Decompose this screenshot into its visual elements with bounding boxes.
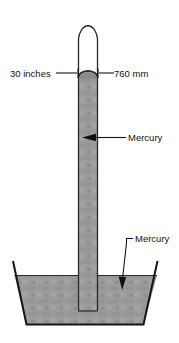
mercury-column: [78, 71, 98, 311]
label-mercury-column: Mercury: [128, 132, 163, 143]
label-760-mm: 760 mm: [114, 68, 148, 79]
vacuum-fill: [79, 26, 98, 76]
label-30-inches: 30 inches: [10, 68, 51, 79]
label-inches-group: 30 inches: [10, 68, 78, 79]
barometer-svg: 30 inches 760 mm Mercury Mercury: [0, 0, 179, 343]
label-mercury-reservoir: Mercury: [135, 233, 170, 244]
leader-mercury-reservoir: [123, 239, 134, 280]
label-mm-group: 760 mm: [98, 68, 148, 79]
vacuum-space: [79, 26, 98, 76]
barometer-diagram: 30 inches 760 mm Mercury Mercury: [0, 0, 179, 343]
mercury-column-fill: [78, 78, 98, 311]
